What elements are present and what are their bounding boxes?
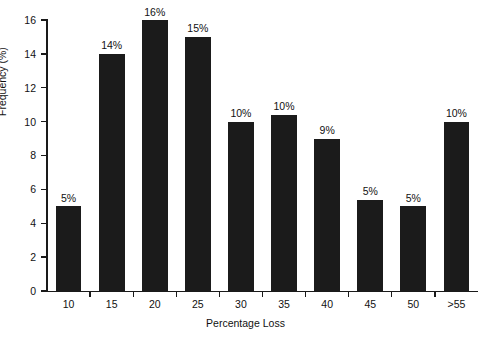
bar: 10% [228,122,254,291]
x-axis-category-label: 15 [106,299,118,310]
x-axis-title: Percentage Loss [0,318,491,329]
y-axis-tick-label: 4 [30,218,36,229]
bar-value-label: 10% [230,108,251,119]
x-axis-category-label: 45 [364,299,376,310]
bar: 9% [314,139,340,291]
y-axis-tick-label: 0 [30,286,36,297]
x-axis-tick [391,291,392,297]
x-axis-tick [89,291,90,297]
y-axis-tick-label: 10 [24,116,36,127]
bar-value-label: 5% [406,193,421,204]
bar-chart: Frequency (%) 0246810121416 5%14%16%15%1… [0,0,491,339]
bar-value-label: 10% [274,101,295,112]
x-axis-tick [262,291,263,297]
y-axis-title: Frequency (%) [0,47,8,116]
bar-value-label: 15% [187,23,208,34]
y-axis-tick-label: 2 [30,252,36,263]
x-axis-category-label: 20 [149,299,161,310]
bar: 5% [400,206,426,291]
bar: 16% [142,20,168,291]
x-axis-category-label: 35 [278,299,290,310]
x-axis-tick [176,291,177,297]
x-axis-category-label: 10 [63,299,75,310]
x-axis-category-label: 40 [321,299,333,310]
y-axis-tick-label: 16 [24,15,36,26]
bar-value-label: 14% [101,40,122,51]
bar: 10% [444,122,470,291]
x-axis-category-label: 30 [235,299,247,310]
bar: 5% [56,206,82,291]
bar: 5% [357,200,383,291]
y-axis-tick-label: 6 [30,184,36,195]
y-axis-tick-label: 12 [24,82,36,93]
x-axis-category-label: >55 [448,299,466,310]
bar-value-label: 5% [61,193,76,204]
x-axis-tick [133,291,134,297]
bar: 15% [185,37,211,291]
y-axis-tick-label: 8 [30,150,36,161]
x-axis-category-label: 25 [192,299,204,310]
x-axis-tick [305,291,306,297]
y-axis-tick-label: 14 [24,49,36,60]
bar-value-label: 9% [320,125,335,136]
x-axis-tick [434,291,435,297]
x-axis-tick [219,291,220,297]
x-axis-tick [348,291,349,297]
plot-area: 5%14%16%15%10%10%9%5%5%10% [47,20,478,291]
bar: 10% [271,115,297,291]
bar-value-label: 16% [144,7,165,18]
bar: 14% [99,54,125,291]
bar-value-label: 10% [446,108,467,119]
bar-value-label: 5% [363,186,378,197]
x-axis-category-label: 50 [408,299,420,310]
